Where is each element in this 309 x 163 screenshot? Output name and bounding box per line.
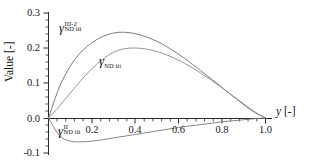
y-tick-label-3: 0.0	[10, 114, 40, 125]
gamma-glyph-3: γ	[58, 123, 63, 138]
x-tick-label-2: 0.6	[164, 125, 194, 136]
gamma-1-subscript: ND iii	[64, 26, 81, 33]
curve-gamma_ND_iii_III-2	[49, 32, 266, 118]
curve-label-gamma-II: γIIND iii	[58, 124, 80, 137]
x-axis-title: y [-]	[276, 106, 295, 118]
gamma-2-subscript: ND iii	[104, 63, 121, 70]
x-tick-label-0: 0.2	[77, 125, 107, 136]
y-tick-label-0: 0.3	[10, 8, 40, 19]
gamma-3-scripts: IIND iii	[63, 130, 80, 137]
x-tick-label-3: 0.8	[207, 125, 237, 136]
curve-label-gamma-III-2: γIII-2ND iii	[59, 21, 81, 34]
curve-gamma_ND_iii	[49, 48, 266, 118]
x-tick-label-4: 1.0	[251, 125, 281, 136]
gamma-glyph-1: γ	[59, 20, 64, 35]
y-axis-title: Value [-]	[4, 30, 16, 94]
chart-plot-area	[0, 0, 309, 163]
y-tick-label-4: -0.1	[6, 148, 40, 159]
curve-label-gamma-ND: γND iii	[99, 54, 121, 67]
gamma-3-subscript: ND iii	[63, 129, 80, 136]
x-axis-title-unit: [-]	[281, 105, 295, 117]
gamma-1-scripts: III-2ND iii	[64, 27, 81, 34]
x-tick-label-1: 0.4	[120, 125, 150, 136]
chart-container: 0.3 0.2 0.1 0.0 -0.1 0.2 0.4 0.6 0.8 1.0…	[0, 0, 309, 163]
